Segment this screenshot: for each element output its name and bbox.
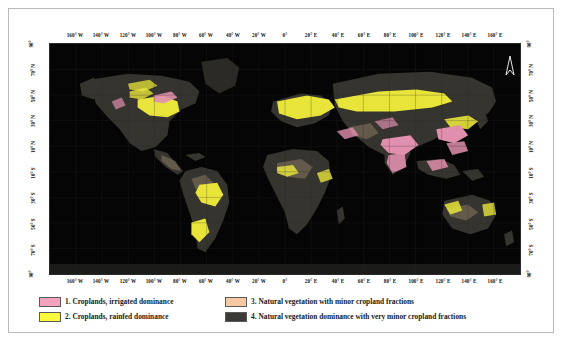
lon-tick-label: 40° W [226,32,240,38]
lon-tick-label: 80° W [173,278,187,284]
map-legend: 1. Croplands, irrigated dominance 3. Nat… [29,297,541,327]
lon-tick-label: 140° W [93,32,110,38]
lon-tick-label: 160° W [67,32,84,38]
lon-tick-label: 60° E [358,32,370,38]
lat-tick-label: 50° N [528,90,534,102]
legend-label-2: 2. Croplands, rainfed dominance [65,312,169,322]
legend-swatch-1 [39,297,61,307]
world-map-raster [50,44,520,274]
figure-panel: 160° W 140° W 120° W 100° W 80° W 60° W … [8,8,554,333]
legend-swatch-4 [225,312,247,322]
lon-tick-label: 100° W [146,32,163,38]
legend-label-1: 1. Croplands, irrigated dominance [65,297,173,307]
legend-label-4: 4. Natural vegetation dominance with ver… [251,312,466,322]
legend-label-3: 3. Natural vegetation with minor croplan… [251,297,414,307]
lon-tick-label: 100° W [146,278,163,284]
lat-tick-label: 70° N [30,64,36,76]
lat-tick-label: 30° S [30,192,36,203]
lat-tick-label: 10° N [30,141,36,153]
legend-swatch-3 [225,297,247,307]
lat-tick-label: 90° [28,40,34,47]
legend-item-1[interactable]: 1. Croplands, irrigated dominance [39,297,173,307]
legend-row: 2. Croplands, rainfed dominance 4. Natur… [29,312,541,325]
lon-tick-label: 60° E [358,278,370,284]
lon-tick-label: 100° E [409,278,424,284]
lat-tick-label: 10° S [528,167,534,178]
lat-tick-label: 50° N [30,90,36,102]
lat-tick-label: 90° [28,270,34,277]
legend-swatch-2 [39,312,61,322]
lon-tick-label: 160° W [67,278,84,284]
lon-tick-label: 20° W [252,32,266,38]
north-arrow-icon [503,55,517,77]
lon-tick-label: 20° W [252,278,266,284]
lon-tick-label: 40° E [332,278,344,284]
lon-tick-label: 120° E [436,278,451,284]
lon-tick-label: 120° W [120,32,137,38]
lon-tick-label: 0° [283,278,288,284]
legend-item-4[interactable]: 4. Natural vegetation dominance with ver… [225,312,466,322]
lat-tick-label: 50° S [528,218,534,229]
map-block: 160° W 140° W 120° W 100° W 80° W 60° W … [29,21,541,289]
lon-tick-label: 80° W [173,32,187,38]
lon-tick-label: 40° E [332,32,344,38]
lon-tick-label: 120° W [120,278,137,284]
lat-tick-label: 30° N [528,115,534,127]
lon-tick-label: 140° E [462,278,477,284]
lon-tick-label: 60° W [199,32,213,38]
legend-item-3[interactable]: 3. Natural vegetation with minor croplan… [225,297,414,307]
lon-tick-label: 140° E [462,32,477,38]
lat-tick-label: 70° S [30,244,36,255]
lon-tick-label: 100° E [409,32,424,38]
lon-tick-label: 160° E [488,32,503,38]
lon-tick-label: 60° W [199,278,213,284]
lon-tick-label: 20° E [305,278,317,284]
lon-tick-label: 140° W [93,278,110,284]
lat-tick-label: 10° N [528,141,534,153]
lat-tick-label: 50° S [30,218,36,229]
map-frame[interactable] [49,43,521,275]
lon-tick-label: 80° E [384,278,396,284]
lat-tick-label: 30° N [30,115,36,127]
lon-tick-label: 120° E [436,32,451,38]
lat-tick-label: 30° S [528,192,534,203]
lat-tick-label: 70° N [528,64,534,76]
lon-tick-label: 0° [283,32,288,38]
lat-tick-label: 70° S [528,244,534,255]
legend-item-2[interactable]: 2. Croplands, rainfed dominance [39,312,169,322]
lat-tick-label: 10° S [30,167,36,178]
lon-tick-label: 80° E [384,32,396,38]
lon-tick-label: 20° E [305,32,317,38]
lon-tick-label: 160° E [488,278,503,284]
lon-tick-label: 40° W [226,278,240,284]
legend-row: 1. Croplands, irrigated dominance 3. Nat… [29,297,541,310]
lat-tick-label: 90° [526,40,532,47]
lat-tick-label: 90° [526,270,532,277]
